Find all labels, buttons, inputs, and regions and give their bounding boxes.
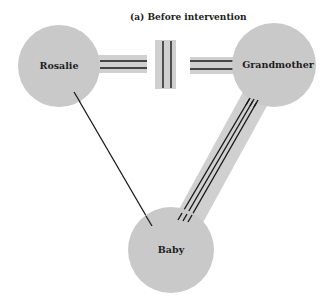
- node-baby: Baby: [128, 207, 214, 293]
- node-label-baby: Baby: [158, 244, 185, 255]
- diagram-title: (a) Before intervention: [130, 12, 247, 22]
- node-label-rosalie: Rosalie: [40, 60, 79, 71]
- family-relationship-diagram: (a) Before intervention Rosalie Grandmot…: [0, 0, 330, 305]
- edge-grandmother-baby-close: [172, 92, 268, 228]
- edge-rosalie-baby-weak: [74, 92, 152, 226]
- node-label-grandmother: Grandmother: [242, 59, 315, 70]
- conflict-barrier: [155, 40, 176, 89]
- node-grandmother: Grandmother: [232, 23, 316, 107]
- node-rosalie: Rosalie: [18, 25, 100, 107]
- edge-rosalie-stub: [92, 55, 147, 73]
